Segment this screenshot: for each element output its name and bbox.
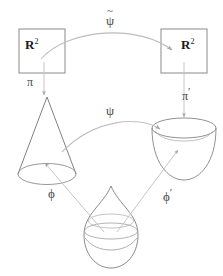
pi-glyph: π [27, 75, 33, 89]
psi-tilde-glyph-wrap: ~ψ [106, 14, 114, 27]
pi-prime-mark: ′ [188, 85, 190, 97]
r-squared-right-label: R2 [181, 38, 194, 51]
psi-glyph: ψ [106, 103, 114, 118]
phi-label: ϕ [48, 187, 55, 200]
teardrop-mid-ellipse [85, 223, 138, 239]
r-squared-left-letter: R [25, 37, 34, 52]
bowl-rim-ellipse [152, 118, 216, 138]
psi-label: ψ [106, 104, 114, 117]
r-squared-right-exponent: 2 [190, 37, 194, 46]
psi-tilde-arrow-path [41, 33, 172, 59]
r-squared-right-letter: R [181, 37, 190, 52]
phi-prime-mark: ′ [170, 186, 172, 198]
cone-base-ellipse [18, 164, 76, 185]
phi-prime-glyph: ϕ [163, 189, 170, 204]
pi-label: π [27, 76, 33, 88]
r-squared-left-label: R2 [25, 38, 38, 51]
cone-right-edge [47, 97, 76, 174]
r-squared-left-exponent: 2 [34, 37, 38, 46]
commutative-diagram: R2 R2 ~ψ π π′ ψ ϕ ϕ′ [0, 0, 223, 276]
tilde-accent: ~ [107, 5, 113, 16]
phi-glyph: ϕ [48, 186, 55, 201]
phi-prime-label: ϕ′ [163, 187, 172, 203]
psi-tilde-label: ~ψ [106, 14, 114, 27]
pi-prime-label: π′ [182, 86, 190, 102]
cone-left-edge [18, 97, 47, 174]
teardrop-outline [84, 186, 138, 268]
psi-arrow-path [62, 122, 160, 152]
teardrop-lower-arc [85, 238, 137, 250]
